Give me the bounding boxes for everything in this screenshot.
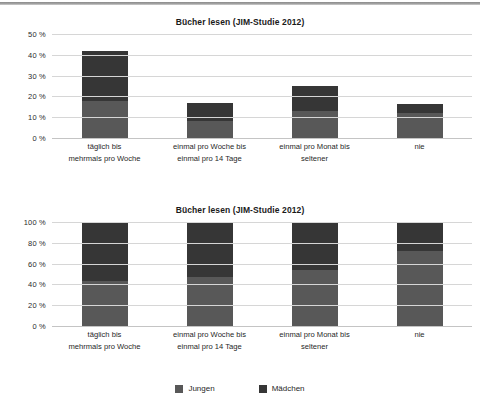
stacked-bar[interactable]	[82, 222, 128, 326]
gridline-rel-100	[52, 222, 472, 223]
y-tick-label-rel-20: 20 %	[28, 301, 46, 310]
chart-title-relative: Bücher lesen (JIM-Studie 2012)	[0, 204, 480, 216]
category-label-line: einmal pro Woche bis	[159, 329, 260, 341]
bar-slot	[367, 34, 472, 138]
bar-segment-jungen[interactable]	[82, 281, 128, 326]
category-label: einmal pro Monat bisseltener	[262, 141, 367, 171]
category-label-line: nie	[369, 329, 470, 341]
bar-segment-maedchen[interactable]	[397, 104, 443, 113]
y-tick-label-rel-100: 100 %	[24, 218, 46, 227]
gridline-abs-10	[52, 117, 472, 118]
bars-layer-absolute	[52, 34, 472, 138]
category-label-line: einmal pro 14 Tage	[159, 341, 260, 353]
category-label-line: seltener	[264, 153, 365, 165]
category-label: täglich bismehrmals pro Woche	[52, 141, 157, 171]
bar-segment-maedchen[interactable]	[397, 222, 443, 251]
category-label-line: mehrmals pro Woche	[54, 153, 155, 165]
plot-wrap-relative: 0 %20 %40 %60 %80 %100 %	[0, 222, 480, 326]
y-tick-label-abs-50: 50 %	[28, 30, 46, 39]
bar-segment-maedchen[interactable]	[187, 103, 233, 122]
gridline-rel-60	[52, 264, 472, 265]
bar-segment-jungen[interactable]	[82, 101, 128, 138]
plot-area-absolute	[52, 34, 472, 138]
bar-slot	[52, 222, 157, 326]
stacked-bar[interactable]	[397, 104, 443, 138]
category-label: täglich bismehrmals pro Woche	[52, 329, 157, 359]
category-labels-absolute: täglich bismehrmals pro Wocheeinmal pro …	[0, 141, 480, 171]
bar-segment-jungen[interactable]	[292, 111, 338, 138]
legend-swatch-icon	[175, 385, 183, 393]
page-top-rule	[0, 2, 480, 5]
y-tick-label-rel-40: 40 %	[28, 280, 46, 289]
bar-slot	[367, 222, 472, 326]
gridline-abs-20	[52, 96, 472, 97]
y-axis-absolute: 0 %10 %20 %30 %40 %50 %	[0, 34, 52, 138]
bar-segment-jungen[interactable]	[292, 270, 338, 326]
y-tick-label-rel-80: 80 %	[28, 238, 46, 247]
y-axis-relative: 0 %20 %40 %60 %80 %100 %	[0, 222, 52, 326]
bar-slot	[157, 222, 262, 326]
chart-legend: JungenMädchen	[0, 384, 480, 393]
category-label-line: täglich bis	[54, 141, 155, 153]
y-tick-label-abs-40: 40 %	[28, 50, 46, 59]
gridline-abs-30	[52, 76, 472, 77]
category-label-line: mehrmals pro Woche	[54, 341, 155, 353]
plot-wrap-absolute: 0 %10 %20 %30 %40 %50 %	[0, 34, 480, 138]
stacked-bar[interactable]	[397, 222, 443, 326]
legend-item-maedchen[interactable]: Mädchen	[259, 384, 305, 393]
category-label-line: nie	[369, 141, 470, 153]
bar-segment-maedchen[interactable]	[82, 222, 128, 281]
y-tick-label-rel-60: 60 %	[28, 259, 46, 268]
category-label-line: einmal pro 14 Tage	[159, 153, 260, 165]
category-label: nie	[367, 141, 472, 171]
stacked-bar[interactable]	[187, 222, 233, 326]
y-tick-label-abs-20: 20 %	[28, 92, 46, 101]
stacked-bar[interactable]	[82, 51, 128, 138]
bar-slot	[157, 34, 262, 138]
gridline-abs-0	[52, 138, 472, 139]
stacked-bar[interactable]	[292, 86, 338, 138]
chart-panel-absolute: Bücher lesen (JIM-Studie 2012) 0 %10 %20…	[0, 8, 480, 194]
gridline-rel-0	[52, 326, 472, 327]
gridline-rel-20	[52, 305, 472, 306]
legend-label: Mädchen	[272, 384, 305, 393]
category-labels-relative: täglich bismehrmals pro Wocheeinmal pro …	[0, 329, 480, 359]
gridline-rel-80	[52, 243, 472, 244]
bars-layer-relative	[52, 222, 472, 326]
bar-segment-jungen[interactable]	[187, 121, 233, 138]
category-label: einmal pro Monat bisseltener	[262, 329, 367, 359]
plot-area-relative	[52, 222, 472, 326]
y-tick-label-abs-10: 10 %	[28, 113, 46, 122]
chart-panel-relative: Bücher lesen (JIM-Studie 2012) 0 %20 %40…	[0, 196, 480, 376]
legend-label: Jungen	[188, 384, 214, 393]
gridline-abs-40	[52, 55, 472, 56]
category-label: einmal pro Woche biseinmal pro 14 Tage	[157, 329, 262, 359]
legend-swatch-icon	[259, 385, 267, 393]
stacked-bar[interactable]	[187, 103, 233, 138]
category-label-line: seltener	[264, 341, 365, 353]
category-label: nie	[367, 329, 472, 359]
category-label-line: einmal pro Monat bis	[264, 329, 365, 341]
y-tick-label-abs-30: 30 %	[28, 71, 46, 80]
chart-title-absolute: Bücher lesen (JIM-Studie 2012)	[0, 16, 480, 28]
category-label-line: täglich bis	[54, 329, 155, 341]
bar-segment-maedchen[interactable]	[292, 86, 338, 111]
category-label: einmal pro Woche biseinmal pro 14 Tage	[157, 141, 262, 171]
stacked-bar[interactable]	[292, 222, 338, 326]
bar-segment-jungen[interactable]	[397, 251, 443, 326]
category-label-line: einmal pro Monat bis	[264, 141, 365, 153]
bar-slot	[262, 222, 367, 326]
gridline-abs-50	[52, 34, 472, 35]
category-label-line: einmal pro Woche bis	[159, 141, 260, 153]
bar-segment-maedchen[interactable]	[187, 222, 233, 277]
gridline-rel-40	[52, 284, 472, 285]
bar-slot	[262, 34, 367, 138]
legend-item-jungen[interactable]: Jungen	[175, 384, 214, 393]
bar-slot	[52, 34, 157, 138]
